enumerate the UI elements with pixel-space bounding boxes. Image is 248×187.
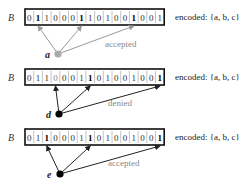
array-label: B xyxy=(8,12,14,23)
bit-cell: 0 xyxy=(62,133,67,143)
encoded-set-label: encoded: {a, b, c} xyxy=(175,12,240,22)
bit-cell: 1 xyxy=(105,13,110,23)
query-node xyxy=(54,50,61,57)
bit-cell: 1 xyxy=(36,73,41,83)
bit-cell: 0 xyxy=(123,133,128,143)
bit-cell: 0 xyxy=(97,133,102,143)
bit-cell: 1 xyxy=(132,133,137,143)
bit-cell: 0 xyxy=(149,73,154,83)
bit-cell: 0 xyxy=(140,133,145,143)
bit-cell: 1 xyxy=(158,13,163,23)
encoded-set-label: encoded: {a, b, c} xyxy=(175,132,240,142)
bit-cell: 1 xyxy=(105,133,110,143)
bit-cell: 0 xyxy=(140,13,145,23)
bit-cell: 0 xyxy=(149,133,154,143)
bit-cell: 0 xyxy=(123,73,128,83)
bit-cell: 1 xyxy=(132,13,137,23)
bit-cell: 0 xyxy=(123,13,128,23)
bit-cell: 1 xyxy=(132,73,137,83)
query-status-label: accepted xyxy=(108,158,140,168)
bit-cell: 0 xyxy=(97,73,102,83)
query-status-label: accepted xyxy=(105,39,137,49)
bit-cell: 0 xyxy=(114,133,119,143)
bit-cell: 0 xyxy=(114,13,119,23)
query-element-label: a xyxy=(45,49,50,60)
bit-cell: 1 xyxy=(158,73,163,83)
bit-cell: 1 xyxy=(88,13,93,23)
bit-cell: 0 xyxy=(71,133,76,143)
bit-cell: 0 xyxy=(114,73,119,83)
bit-cell: 1 xyxy=(45,13,50,23)
bit-cell: 1 xyxy=(79,73,84,83)
query-node xyxy=(55,110,62,117)
bit-cell: 1 xyxy=(36,13,41,23)
bit-cell: 1 xyxy=(88,133,93,143)
bit-cell: 0 xyxy=(71,73,76,83)
hash-arrow xyxy=(55,86,59,114)
bit-cell: 1 xyxy=(36,133,41,143)
query-element-label: d xyxy=(46,109,52,120)
query-status-label: denied xyxy=(108,98,132,108)
bit-cell: 1 xyxy=(45,133,50,143)
array-label: B xyxy=(8,72,14,83)
bit-cell: 0 xyxy=(53,133,58,143)
bit-cell: 0 xyxy=(53,73,58,83)
bit-cell: 0 xyxy=(149,13,154,23)
bit-cell: 1 xyxy=(45,73,50,83)
bit-cell: 0 xyxy=(97,13,102,23)
array-label: B xyxy=(8,132,14,143)
bit-cell: 1 xyxy=(79,13,84,23)
bit-cell: 0 xyxy=(140,73,145,83)
bit-cell: 0 xyxy=(27,13,32,23)
encoded-set-label: encoded: {a, b, c} xyxy=(175,72,240,82)
bit-cell: 1 xyxy=(79,133,84,143)
bit-cell: 0 xyxy=(71,13,76,23)
bloom-filter-diagram: B0110001101001001encoded: {a, b, c}aacce… xyxy=(0,0,248,187)
bit-cell: 0 xyxy=(62,13,67,23)
bit-cell: 0 xyxy=(53,13,58,23)
query-node xyxy=(56,170,63,177)
bit-array-row: B0110001101001001encoded: {a, b, c}eacce… xyxy=(8,129,240,180)
bit-cell: 1 xyxy=(105,73,110,83)
bit-cell: 0 xyxy=(27,133,32,143)
bit-array-row: B0110001101001001encoded: {a, b, c}ddeni… xyxy=(8,69,240,120)
bit-cell: 1 xyxy=(88,73,93,83)
bit-cell: 1 xyxy=(158,133,163,143)
query-element-label: e xyxy=(47,169,52,180)
bit-array-row: B0110001101001001encoded: {a, b, c}aacce… xyxy=(8,9,240,60)
bit-cell: 0 xyxy=(27,73,32,83)
bit-cell: 0 xyxy=(62,73,67,83)
